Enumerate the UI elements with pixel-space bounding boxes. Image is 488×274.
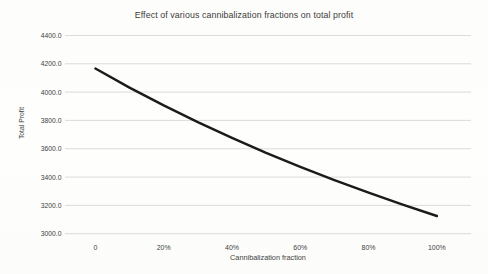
- total-profit-line: [95, 69, 437, 217]
- chart-container: Effect of various cannibalization fracti…: [0, 0, 488, 274]
- y-tick-label: 3800.0: [41, 117, 62, 124]
- y-tick-label: 4400.0: [41, 32, 62, 39]
- plot-area: 4400.04200.04000.03800.03600.03400.03200…: [0, 0, 488, 274]
- x-tick-label: 40%: [225, 244, 239, 251]
- x-tick-label: 100%: [428, 244, 446, 251]
- y-tick-label: 3200.0: [41, 202, 62, 209]
- y-tick-label: 3000.0: [41, 230, 62, 237]
- x-tick-label: 20%: [157, 244, 171, 251]
- y-tick-label: 3600.0: [41, 145, 62, 152]
- x-axis-title: Cannibalization fraction: [65, 253, 471, 262]
- x-tick-label: 0: [93, 244, 97, 251]
- y-tick-label: 3400.0: [41, 174, 62, 181]
- x-tick-label: 60%: [293, 244, 307, 251]
- y-tick-label: 4200.0: [41, 60, 62, 67]
- x-tick-label: 80%: [362, 244, 376, 251]
- y-tick-label: 4000.0: [41, 89, 62, 96]
